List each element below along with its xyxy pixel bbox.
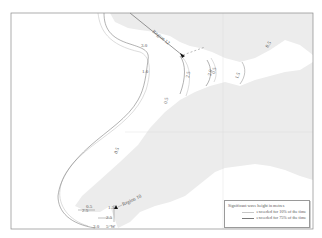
legend-swatch-light-line [242, 212, 254, 213]
longitude-label: 5°W [106, 224, 115, 229]
contour-label-1-5-southwest: 1.5 [108, 205, 115, 210]
contour-label-1-0-north: 1.0 [142, 69, 149, 74]
contour-label-2-5-southwest-b: 2.5 [106, 215, 113, 220]
contour-label-3-0-south: 3.0 [93, 224, 100, 229]
legend-swatch-dark-line [242, 218, 254, 219]
legend-item-label: exceeded for 75% of the time [257, 215, 306, 221]
contour-label-2-5-southwest-a: 2.5 [82, 208, 89, 213]
legend: Significant wave height in metres exceed… [224, 200, 310, 228]
contour-label-3-0-north: 3.0 [141, 43, 148, 48]
legend-item-75pct: exceeded for 75% of the time [228, 215, 306, 221]
